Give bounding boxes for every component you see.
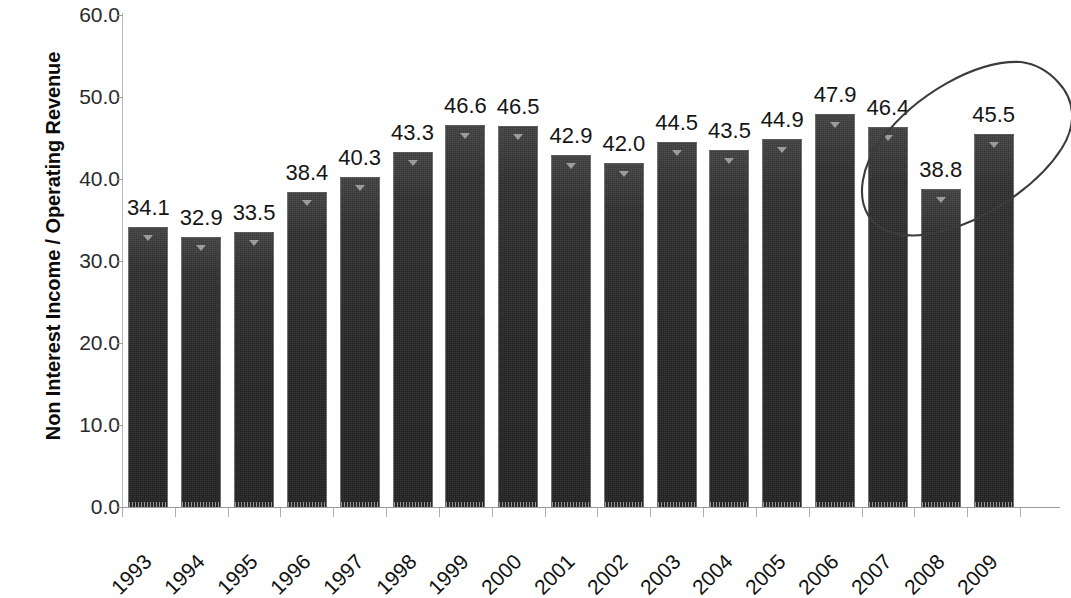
bar-value-label: 44.5	[655, 110, 698, 136]
y-axis-tick-mark	[117, 97, 123, 98]
y-axis-tick-mark	[117, 261, 123, 262]
y-axis-tick-mark	[117, 425, 123, 426]
x-axis-tick-mark	[967, 508, 968, 517]
x-axis-tick-mark	[862, 508, 863, 517]
y-axis-tick-label: 30.0	[48, 249, 120, 273]
x-axis-tick-mark	[914, 508, 915, 517]
bar[interactable]	[234, 232, 274, 507]
bar[interactable]	[128, 227, 168, 507]
bar-value-label: 40.3	[338, 145, 381, 171]
bar[interactable]	[604, 163, 644, 507]
bar-value-label: 44.9	[761, 107, 804, 133]
bar-value-label: 34.1	[127, 195, 170, 221]
bar[interactable]	[868, 127, 908, 507]
x-axis-tick-mark	[756, 508, 757, 517]
bar[interactable]	[287, 192, 327, 507]
bar[interactable]	[657, 142, 697, 507]
bar-chart: Non Interest Income / Operating Revenue …	[0, 0, 1071, 598]
bar-value-label: 46.5	[497, 94, 540, 120]
bar[interactable]	[815, 114, 855, 507]
bar[interactable]	[445, 125, 485, 507]
x-axis-tick-mark	[1020, 508, 1021, 517]
bar-value-label: 46.6	[444, 93, 487, 119]
bar-value-label: 42.0	[602, 131, 645, 157]
y-axis-tick-labels: 60.050.040.030.020.010.00.0	[48, 0, 120, 598]
x-axis-tick-mark	[122, 508, 123, 517]
x-axis-tick-mark	[228, 508, 229, 517]
bar-value-label: 38.4	[285, 160, 328, 186]
y-axis-tick-label: 50.0	[48, 85, 120, 109]
bar-value-label: 32.9	[180, 205, 223, 231]
x-axis-tick-mark	[386, 508, 387, 517]
bar-value-label: 45.5	[972, 102, 1015, 128]
plot-area: 34.132.933.538.440.343.346.646.542.942.0…	[122, 15, 1020, 507]
x-axis-tick-mark	[703, 508, 704, 517]
x-axis-tick-mark	[650, 508, 651, 517]
bar[interactable]	[340, 177, 380, 507]
x-axis-tick-mark	[597, 508, 598, 517]
x-axis-tick-mark	[333, 508, 334, 517]
bar[interactable]	[974, 134, 1014, 507]
bar-value-label: 43.5	[708, 118, 751, 144]
x-axis-tick-mark	[492, 508, 493, 517]
bar-value-label: 33.5	[233, 200, 276, 226]
x-axis-tick-mark	[175, 508, 176, 517]
bar[interactable]	[181, 237, 221, 507]
x-axis-line	[118, 507, 1060, 508]
x-axis-tick-mark	[809, 508, 810, 517]
bar-value-label: 43.3	[391, 120, 434, 146]
y-axis-tick-label: 20.0	[48, 331, 120, 355]
bar-value-label: 47.9	[814, 82, 857, 108]
y-axis-tick-mark	[117, 15, 123, 16]
bar[interactable]	[393, 152, 433, 507]
y-axis-tick-mark	[117, 343, 123, 344]
y-axis-tick-mark	[117, 179, 123, 180]
x-axis-tick-mark	[545, 508, 546, 517]
y-axis-tick-label: 10.0	[48, 413, 120, 437]
y-axis-tick-label: 60.0	[48, 3, 120, 27]
bar-value-label: 38.8	[919, 157, 962, 183]
bar[interactable]	[921, 189, 961, 507]
bar-value-label: 46.4	[867, 95, 910, 121]
x-axis-tick-mark	[439, 508, 440, 517]
y-axis-tick-label: 0.0	[48, 495, 120, 519]
bar[interactable]	[709, 150, 749, 507]
bar[interactable]	[551, 155, 591, 507]
x-axis-tick-mark	[280, 508, 281, 517]
bar-value-label: 42.9	[550, 123, 593, 149]
y-axis-tick-label: 40.0	[48, 167, 120, 191]
bar[interactable]	[762, 139, 802, 507]
bar[interactable]	[498, 126, 538, 507]
